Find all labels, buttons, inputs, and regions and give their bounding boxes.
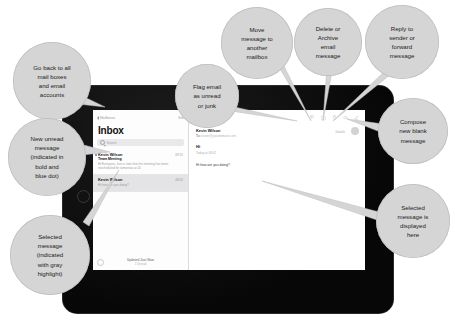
reply-forward-icon[interactable] (343, 115, 348, 120)
callout-line: Move (241, 25, 273, 34)
recipient-label: To: (196, 134, 201, 138)
callout-line: message (37, 241, 63, 250)
list-footer: Updated Just Now 1 Unread (93, 255, 188, 270)
list-item[interactable]: Kevin Wilson 08:42 Hi how are you doing? (93, 175, 188, 192)
message-time: 09:15 (175, 153, 183, 157)
search-placeholder: Search (107, 141, 117, 145)
avatar (351, 127, 359, 135)
annotated-screenshot: Mailboxes Edit Inbox Search Kevin Wilson (0, 0, 455, 333)
callout-line: Go back to all (33, 63, 70, 72)
callout-move: Move message to another mailbox (221, 7, 293, 79)
callout-mailboxes: Go back to all mail boxes and email acco… (13, 42, 91, 120)
message-date: Today at 08:42 (196, 151, 358, 155)
callout-line: Selected (37, 232, 63, 241)
folder-move-icon[interactable] (321, 115, 326, 120)
list-item[interactable]: Kevin Wilson 09:15 Team Meeting Hi Every… (93, 149, 188, 175)
callout-line: New unread (31, 134, 64, 143)
tablet-screen: Mailboxes Edit Inbox Search Kevin Wilson (93, 110, 365, 270)
callout-line: mail boxes (33, 72, 70, 81)
callout-line: as unread (193, 91, 221, 100)
mail-application: Mailboxes Edit Inbox Search Kevin Wilson (93, 110, 365, 270)
callout-line: accounts (33, 90, 70, 99)
callout-line: Flag email (193, 82, 221, 91)
callout-line: bold and (31, 162, 64, 171)
compose-icon[interactable] (97, 259, 104, 266)
callout-line: Archive (316, 33, 341, 42)
message-subject: Team Meeting (98, 157, 183, 161)
callout-line: message to (241, 34, 273, 43)
message-sender: Kevin Wilson (98, 152, 122, 157)
callout-line: highlight) (37, 269, 63, 278)
callout-line: sender or (389, 33, 415, 42)
callout-reply: Reply to sender or forward message (365, 5, 439, 79)
recipient-value: kevin@yourdomain.com (202, 134, 236, 138)
unread-count: 1 Unread (127, 262, 154, 266)
callout-line: Delete or (316, 24, 341, 33)
callout-line: blue dot) (31, 171, 64, 180)
callout-selected-message: Selected message (indicated with gray hi… (10, 215, 90, 295)
callout-line: message (316, 51, 341, 60)
message-preview: Hi how are you doing? (98, 183, 183, 187)
callout-line: with gray (37, 260, 63, 269)
search-icon (100, 140, 105, 145)
callout-compose: Compose new blank message (378, 98, 448, 164)
callout-line: Compose (399, 117, 426, 126)
callout-line: another (241, 43, 273, 52)
callout-line: (indicated in (31, 152, 64, 161)
message-header: Details Kevin Wilson To: kevin@yourdomai… (189, 125, 365, 138)
callout-line: (indicated (37, 250, 63, 259)
trash-delete-icon[interactable] (332, 115, 337, 120)
message-body-text: Hi how are you doing? (196, 163, 358, 167)
message-time: 08:42 (175, 178, 183, 182)
callout-line: email (316, 42, 341, 51)
flag-icon[interactable] (310, 115, 315, 120)
message-list-pane: Mailboxes Edit Inbox Search Kevin Wilson (93, 110, 189, 270)
callout-line: Selected (398, 203, 429, 212)
back-to-mailboxes-button[interactable]: Mailboxes (97, 116, 115, 120)
chevron-left-icon (97, 116, 99, 120)
unread-dot-icon (95, 154, 97, 156)
callout-line: message (31, 143, 64, 152)
callout-line: here (398, 230, 429, 239)
details-button[interactable]: Details (336, 130, 345, 134)
page-title: Inbox (93, 125, 188, 139)
callout-delete: Delete or Archive email message (294, 8, 362, 76)
callout-line: message (399, 136, 426, 145)
reading-pane: Details Kevin Wilson To: kevin@yourdomai… (189, 110, 365, 270)
callout-line: new blank (399, 126, 426, 135)
compose-icon[interactable] (354, 115, 359, 120)
back-label: Mailboxes (100, 116, 115, 120)
callout-reading-pane: Selected message is displayed here (376, 184, 450, 258)
sender-name: Kevin Wilson (196, 128, 358, 133)
message-body: Hi Today at 08:42 Hi how are you doing? (189, 138, 365, 173)
callout-line: and email (33, 81, 70, 90)
message-sender: Kevin Wilson (98, 177, 122, 182)
callout-line: forward (389, 42, 415, 51)
callout-line: Reply to (389, 24, 415, 33)
callout-flag: Flag email as unread or junk (175, 64, 239, 128)
callout-line: message is (398, 212, 429, 221)
callout-line: message (389, 51, 415, 60)
search-input[interactable]: Search (97, 139, 184, 146)
message-subject-heading: Hi (196, 144, 358, 149)
message-preview: Hi Everyone, Just a note that the meetin… (98, 162, 183, 171)
list-toolbar: Mailboxes Edit (93, 110, 188, 125)
callout-line: or junk (193, 101, 221, 110)
callout-line: mailbox (241, 52, 273, 61)
home-button[interactable] (77, 190, 90, 203)
callout-unread: New unread message (indicated in bold an… (8, 118, 86, 196)
callout-line: displayed (398, 221, 429, 230)
